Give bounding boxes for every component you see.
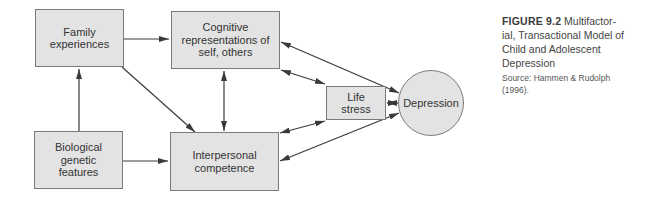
node-interpersonal-label: Interpersonal competence	[192, 149, 256, 174]
node-interpersonal-competence: Interpersonal competence	[170, 132, 279, 191]
arrow-interpersonal-lifestress	[280, 121, 325, 133]
node-depression: Depression	[398, 70, 464, 136]
arrow-interpersonal-depression	[280, 113, 399, 161]
node-life-stress: Life stress	[326, 86, 386, 120]
node-biological-label: Biological genetic features	[55, 141, 102, 179]
arrow-cognitive-lifestress	[281, 70, 325, 84]
arrow-family-to-interpersonal	[122, 67, 195, 132]
node-cognitive-representations: Cognitive representations of self, other…	[171, 11, 280, 69]
node-cognitive-label: Cognitive representations of self, other…	[181, 21, 269, 59]
node-biological-genetic: Biological genetic features	[34, 131, 123, 189]
node-family-experiences: Family experiences	[35, 9, 124, 67]
figure-caption: FIGURE 9.2 Multifactor- ial, Transaction…	[502, 14, 661, 96]
figure-source: Source: Hammen & Rudolph (1996).	[502, 72, 661, 96]
node-depression-label: Depression	[403, 97, 459, 110]
node-life-stress-label: Life stress	[341, 91, 370, 116]
node-family-label: Family experiences	[50, 26, 109, 51]
figure-number: FIGURE 9.2	[502, 15, 561, 27]
